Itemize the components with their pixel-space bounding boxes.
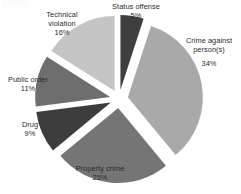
- slice-label-technical-violation: Technical violation 16%: [32, 10, 92, 38]
- slice-label-percent: 25%: [62, 173, 138, 182]
- slice-label-percent: 11%: [0, 84, 56, 93]
- slice-label-name-line1: Technical: [32, 10, 92, 19]
- slice-label-percent: 5%: [97, 11, 175, 20]
- slice-label-name: Property crime: [62, 164, 138, 173]
- slice-label-name: Crime against person(s): [178, 36, 240, 54]
- slice-label-crime-against-persons: Crime against person(s) 34%: [178, 36, 240, 69]
- slice-label-drug: Drug 9%: [10, 120, 50, 138]
- pie-chart: Status offense 5% Crime against person(s…: [0, 0, 241, 194]
- slice-label-public-order: Public order 11%: [0, 75, 56, 93]
- slice-label-status-offense: Status offense 5%: [97, 2, 175, 20]
- slice-label-name: Public order: [0, 75, 56, 84]
- slice-label-name-line2: violation: [32, 19, 92, 28]
- slice-label-percent: 9%: [10, 129, 50, 138]
- slice-label-property-crime: Property crime 25%: [62, 164, 138, 182]
- slice-label-percent: 34%: [178, 59, 240, 68]
- slice-label-name: Drug: [10, 120, 50, 129]
- slice-label-name: Status offense: [97, 2, 175, 11]
- slice-label-percent: 16%: [32, 28, 92, 37]
